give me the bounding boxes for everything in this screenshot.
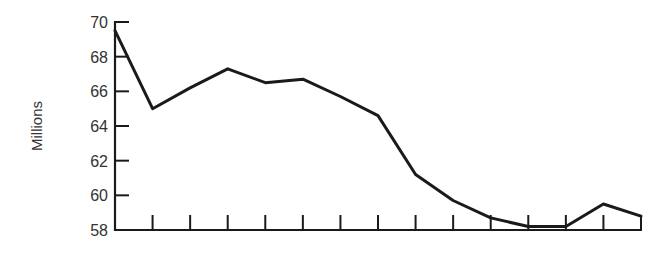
y-tick-label: 58	[90, 222, 108, 239]
x-ticks	[153, 215, 641, 230]
y-tick-label: 70	[90, 14, 108, 31]
axes	[114, 21, 642, 231]
y-tick-label: 60	[90, 187, 108, 204]
line-chart: Millions 58606264666870	[0, 0, 671, 256]
data-line	[115, 31, 641, 227]
y-tick-label: 64	[90, 118, 108, 135]
y-tick-labels: 58606264666870	[90, 14, 108, 239]
y-tick-label: 68	[90, 49, 108, 66]
y-tick-label: 66	[90, 83, 108, 100]
y-axis-title: Millions	[28, 101, 45, 151]
y-tick-label: 62	[90, 153, 108, 170]
